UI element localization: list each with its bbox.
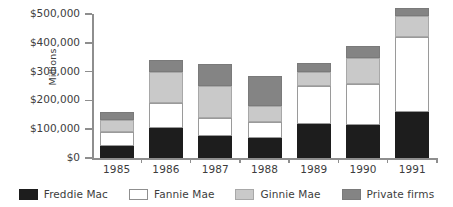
legend-item-freddie-mac[interactable]: Freddie Mac bbox=[19, 188, 108, 200]
y-axis-line bbox=[92, 14, 94, 159]
bar-segment-freddie-mac[interactable] bbox=[149, 128, 183, 158]
bar-segment-fannie-mae[interactable] bbox=[248, 122, 282, 138]
legend-swatch-icon bbox=[129, 189, 148, 200]
bar-segment-ginnie-mae[interactable] bbox=[100, 120, 134, 132]
x-axis-label-1989: 1989 bbox=[289, 163, 339, 175]
x-axis-label-1990: 1990 bbox=[338, 163, 388, 175]
bar-1988[interactable] bbox=[248, 0, 282, 158]
bar-segment-fannie-mae[interactable] bbox=[395, 37, 429, 112]
bar-segment-private-firms[interactable] bbox=[395, 8, 429, 16]
bar-segment-private-firms[interactable] bbox=[100, 112, 134, 119]
bar-segment-fannie-mae[interactable] bbox=[346, 84, 380, 125]
x-axis-label-1991: 1991 bbox=[387, 163, 437, 175]
y-axis-tick-label: $200,000 bbox=[0, 93, 80, 105]
bar-segment-ginnie-mae[interactable] bbox=[395, 16, 429, 37]
legend-swatch-icon bbox=[342, 189, 361, 200]
bar-1990[interactable] bbox=[346, 0, 380, 158]
y-axis-tick bbox=[85, 42, 92, 44]
y-axis-tick bbox=[85, 13, 92, 15]
bar-1989[interactable] bbox=[297, 0, 331, 158]
bar-segment-private-firms[interactable] bbox=[346, 46, 380, 58]
legend-label: Ginnie Mae bbox=[260, 188, 320, 200]
x-axis-label-1987: 1987 bbox=[190, 163, 240, 175]
y-axis-tick bbox=[85, 128, 92, 130]
bar-segment-private-firms[interactable] bbox=[297, 63, 331, 72]
y-axis-tick-label: $300,000 bbox=[0, 65, 80, 77]
y-axis-tick-label: $500,000 bbox=[0, 7, 80, 19]
bar-segment-freddie-mac[interactable] bbox=[395, 112, 429, 158]
legend-label: Freddie Mac bbox=[44, 188, 108, 200]
bar-segment-fannie-mae[interactable] bbox=[149, 103, 183, 128]
bar-1985[interactable] bbox=[100, 0, 134, 158]
y-axis-tick-label: $400,000 bbox=[0, 36, 80, 48]
legend-swatch-icon bbox=[19, 189, 38, 200]
legend-item-private-firms[interactable]: Private firms bbox=[342, 188, 435, 200]
legend-label: Fannie Mae bbox=[154, 188, 215, 200]
legend-item-fannie-mae[interactable]: Fannie Mae bbox=[129, 188, 215, 200]
bar-1987[interactable] bbox=[198, 0, 232, 158]
bar-segment-ginnie-mae[interactable] bbox=[198, 86, 232, 118]
x-axis-label-1986: 1986 bbox=[141, 163, 191, 175]
bar-segment-fannie-mae[interactable] bbox=[297, 86, 331, 124]
y-axis-tick bbox=[85, 100, 92, 102]
bar-segment-ginnie-mae[interactable] bbox=[149, 72, 183, 102]
bar-segment-fannie-mae[interactable] bbox=[100, 132, 134, 146]
bar-segment-private-firms[interactable] bbox=[198, 64, 232, 86]
bar-1986[interactable] bbox=[149, 0, 183, 158]
bar-segment-ginnie-mae[interactable] bbox=[297, 72, 331, 86]
y-axis-tick bbox=[85, 157, 92, 159]
chart-container: Millions $0$100,000$200,000$300,000$400,… bbox=[0, 0, 453, 207]
x-axis-line bbox=[92, 158, 437, 160]
x-axis-label-1988: 1988 bbox=[240, 163, 290, 175]
bar-segment-ginnie-mae[interactable] bbox=[248, 106, 282, 122]
x-axis-label-1985: 1985 bbox=[92, 163, 142, 175]
y-axis-tick bbox=[85, 71, 92, 73]
bar-segment-ginnie-mae[interactable] bbox=[346, 58, 380, 84]
bar-segment-private-firms[interactable] bbox=[248, 76, 282, 106]
bar-segment-private-firms[interactable] bbox=[149, 60, 183, 72]
bar-segment-freddie-mac[interactable] bbox=[248, 138, 282, 158]
bar-segment-freddie-mac[interactable] bbox=[198, 136, 232, 158]
bar-segment-fannie-mae[interactable] bbox=[198, 118, 232, 137]
legend-item-ginnie-mae[interactable]: Ginnie Mae bbox=[235, 188, 320, 200]
legend-swatch-icon bbox=[235, 189, 254, 200]
y-axis-tick-label: $0 bbox=[0, 151, 80, 163]
chart-legend: Freddie MacFannie MaeGinnie MaePrivate f… bbox=[0, 184, 453, 204]
bar-segment-freddie-mac[interactable] bbox=[297, 124, 331, 158]
bar-segment-freddie-mac[interactable] bbox=[346, 125, 380, 158]
bar-1991[interactable] bbox=[395, 0, 429, 158]
bar-segment-freddie-mac[interactable] bbox=[100, 146, 134, 158]
legend-label: Private firms bbox=[367, 188, 435, 200]
y-axis-tick-label: $100,000 bbox=[0, 122, 80, 134]
